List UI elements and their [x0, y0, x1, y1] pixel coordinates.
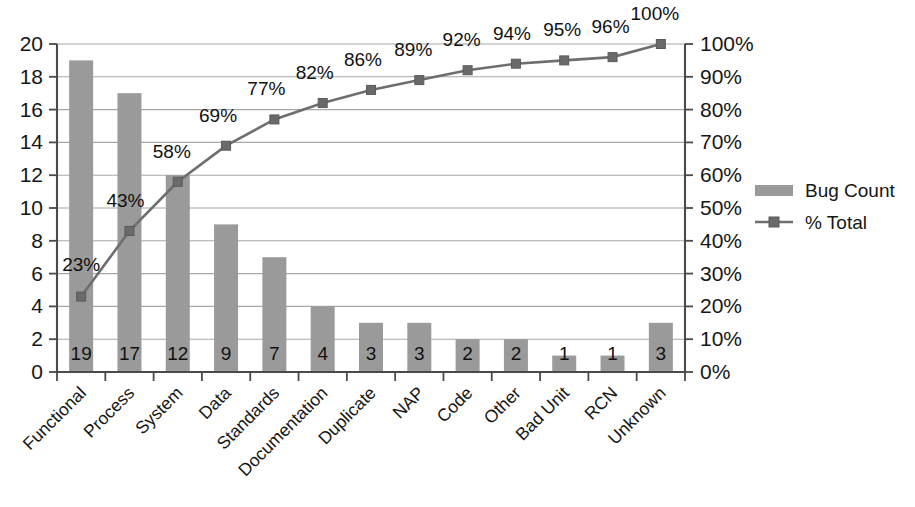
category-axis-label: RCN [580, 383, 621, 424]
legend-label: Bug Count [805, 180, 896, 201]
bar-value-label: 1 [559, 343, 570, 364]
percent-data-label: 96% [592, 16, 630, 37]
percent-data-label: 82% [296, 62, 334, 83]
y-axis-tick-label: 14 [20, 130, 44, 153]
bar-value-label: 2 [511, 343, 522, 364]
bar-value-label: 12 [167, 343, 188, 364]
legend-swatch-bug-count [755, 185, 793, 196]
chart-canvas: 02468101214161820 0%10%20%30%40%50%60%70… [0, 0, 915, 507]
line-marker [560, 56, 569, 65]
bar-value-label: 3 [414, 343, 425, 364]
y2-axis-tick-label: 80% [700, 98, 742, 121]
percent-data-label: 94% [493, 23, 531, 44]
category-axis-label: System [131, 383, 186, 438]
y2-axis-tick-label: 100% [700, 32, 754, 55]
line-marker [415, 76, 424, 85]
percent-data-label: 100% [631, 3, 680, 24]
y-axis-tick-label: 16 [20, 98, 43, 121]
percent-data-label: 23% [62, 254, 100, 275]
bar-value-labels: 1917129743322113 [71, 343, 667, 364]
line-marker [125, 226, 134, 235]
y2-axis-tick-label: 70% [700, 130, 742, 153]
bar-value-label: 1 [607, 343, 618, 364]
bar-value-label: 19 [71, 343, 92, 364]
line-marker [367, 85, 376, 94]
y2-axis-tick-label: 60% [700, 163, 742, 186]
percent-data-label: 95% [543, 19, 581, 40]
category-axis-label: NAP [389, 383, 429, 423]
line-marker [270, 115, 279, 124]
category-axis-label: Functional [19, 383, 90, 454]
y2-axis-tick-label: 30% [700, 262, 742, 285]
y-axis-tick-label: 20 [20, 32, 43, 55]
bar-value-label: 17 [119, 343, 140, 364]
bar-value-label: 3 [366, 343, 377, 364]
bar-value-label: 9 [221, 343, 232, 364]
percent-data-label: 58% [153, 141, 191, 162]
y-axis-tick-label: 0 [31, 360, 43, 383]
category-axis-label: Process [79, 383, 138, 442]
y-axis-tick-label: 2 [31, 327, 43, 350]
bar-value-label: 4 [317, 343, 328, 364]
pareto-chart: 02468101214161820 0%10%20%30%40%50%60%70… [0, 0, 915, 507]
line-marker [77, 292, 86, 301]
category-axis-label: Bad Unit [511, 383, 573, 445]
line-marker [318, 99, 327, 108]
y2-axis-tick-label: 20% [700, 294, 742, 317]
bar [69, 60, 93, 372]
category-axis-label: Other [480, 383, 525, 428]
percent-data-label: 43% [106, 190, 144, 211]
percent-data-label: 69% [199, 105, 237, 126]
chart-legend: Bug Count% Total [755, 180, 896, 233]
y2-axis-tick-label: 40% [700, 229, 742, 252]
line-markers-group [77, 40, 666, 302]
y2-axis-tick-label: 50% [700, 196, 742, 219]
y-axis-tick-label: 10 [20, 196, 43, 219]
y2-axis-tick-labels: 0%10%20%30%40%50%60%70%80%90%100% [700, 32, 754, 383]
category-axis-labels: FunctionalProcessSystemDataStandardsDocu… [19, 382, 670, 480]
percent-data-label: 92% [443, 29, 481, 50]
line-marker [463, 66, 472, 75]
y-axis-tick-label: 4 [31, 294, 43, 317]
y2-axis-tick-label: 0% [700, 360, 730, 383]
line-marker [656, 40, 665, 49]
legend-marker-percent-total [769, 217, 779, 227]
y-axis-tick-label: 18 [20, 65, 43, 88]
line-marker [173, 177, 182, 186]
category-axis-label: Data [195, 382, 235, 422]
y-axis-tick-label: 6 [31, 262, 43, 285]
y-axis-tick-labels: 02468101214161820 [20, 32, 44, 383]
y-axis-tick-label: 8 [31, 229, 43, 252]
bar-value-label: 2 [462, 343, 473, 364]
percent-data-label: 77% [247, 78, 285, 99]
y2-axis-tick-label: 90% [700, 65, 742, 88]
percent-data-label: 89% [394, 39, 432, 60]
line-marker [222, 141, 231, 150]
category-axis-label: Code [433, 383, 477, 427]
bar-value-label: 7 [269, 343, 280, 364]
line-marker [608, 53, 617, 62]
bars-group [69, 60, 673, 372]
y2-axis-tick-label: 10% [700, 327, 742, 350]
line-marker [511, 59, 520, 68]
percent-data-label: 86% [344, 49, 382, 70]
legend-label: % Total [805, 212, 867, 233]
bar-value-label: 3 [656, 343, 667, 364]
y-axis-tick-label: 12 [20, 163, 43, 186]
